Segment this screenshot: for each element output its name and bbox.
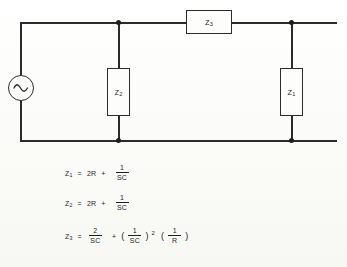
junction-dot-bottom-right <box>289 138 294 143</box>
component-z3: Z3 <box>186 10 232 34</box>
formula-z3-fraction-1: 2 SC <box>89 227 102 245</box>
wire-top-right-segment <box>232 22 337 24</box>
formula-z3-fraction-3: 1 R <box>168 227 181 245</box>
formula-z3-lhs: Z3 <box>64 233 74 240</box>
formula-z3-frac2-numerator: 1 <box>133 227 137 236</box>
sine-wave-icon <box>9 76 33 100</box>
formula-z2-lhs: Z2 <box>64 200 74 207</box>
wire-left-upper <box>20 22 22 75</box>
component-z1-subscript: 1 <box>292 91 295 97</box>
formula-z3-lhs-subscript: 3 <box>69 235 72 241</box>
wire-z2-upper-lead <box>118 22 120 69</box>
component-z1-label: Z1 <box>287 88 295 97</box>
formula-list: Z1 = 2R + 1 SC Z2 = 2R + 1 <box>0 158 347 267</box>
formula-z3-close-paren-b: ) <box>184 231 189 241</box>
formula-z2-numerator: 1 <box>120 194 124 203</box>
formula-z3-exponent-wrapper: 2 <box>150 233 157 240</box>
formula-z3-close-paren-a: ) <box>144 231 149 241</box>
formula-z1-lhs: Z1 <box>64 170 74 177</box>
formula-z3-frac3-numerator: 1 <box>173 227 177 236</box>
wire-top-left-segment <box>20 22 186 24</box>
wire-left-lower <box>20 101 22 141</box>
formula-z2-denominator: SC <box>117 203 127 212</box>
formula-z1-equals: = <box>77 170 83 177</box>
formula-z1-denominator: SC <box>117 173 127 182</box>
formula-z1-term1: 2R <box>86 170 97 177</box>
formula-z3-frac1-numerator: 2 <box>93 227 97 236</box>
formula-z3-exponent: 2 <box>151 230 156 236</box>
diagram-page: Z2 Z3 Z1 Z1 = 2R + 1 <box>0 0 347 267</box>
junction-dot-top-middle <box>116 20 121 25</box>
formula-z3: Z3 = 2 SC + ( 1 SC ) 2 ( 1 <box>64 227 189 245</box>
formula-z1: Z1 = 2R + 1 SC <box>64 164 132 182</box>
formula-z2-plus: + <box>100 200 106 207</box>
formula-z2-equals: = <box>77 200 83 207</box>
formula-z3-frac1-denominator: SC <box>90 236 100 245</box>
circuit-diagram: Z2 Z3 Z1 <box>0 0 347 152</box>
formula-z3-equals: = <box>77 233 83 240</box>
formula-z2-lhs-subscript: 2 <box>69 202 72 208</box>
formula-z3-plus: + <box>111 233 117 240</box>
component-z3-label: Z3 <box>205 18 213 27</box>
formula-z3-frac3-denominator: R <box>172 236 177 245</box>
formula-z3-open-paren-a: ( <box>120 231 125 241</box>
junction-dot-bottom-middle <box>116 138 121 143</box>
component-z2: Z2 <box>107 68 130 116</box>
wire-z1-upper-lead <box>291 22 293 69</box>
ac-source-icon <box>8 75 34 101</box>
junction-dot-top-right <box>289 20 294 25</box>
formula-z2-term1: 2R <box>86 200 97 207</box>
formula-z3-fraction-2: 1 SC <box>128 227 141 245</box>
component-z1: Z1 <box>280 68 303 116</box>
formula-z3-frac2-denominator: SC <box>130 236 140 245</box>
formula-z1-lhs-subscript: 1 <box>69 172 72 178</box>
formula-z1-fraction: 1 SC <box>116 164 129 182</box>
component-z2-label: Z2 <box>114 88 122 97</box>
component-z2-subscript: 2 <box>119 91 122 97</box>
formula-z1-plus: + <box>100 170 106 177</box>
formula-z3-open-paren-b: ( <box>160 231 165 241</box>
formula-z2: Z2 = 2R + 1 SC <box>64 194 132 212</box>
component-z3-subscript: 3 <box>210 21 213 27</box>
formula-z1-numerator: 1 <box>120 164 124 173</box>
formula-z2-fraction: 1 SC <box>116 194 129 212</box>
